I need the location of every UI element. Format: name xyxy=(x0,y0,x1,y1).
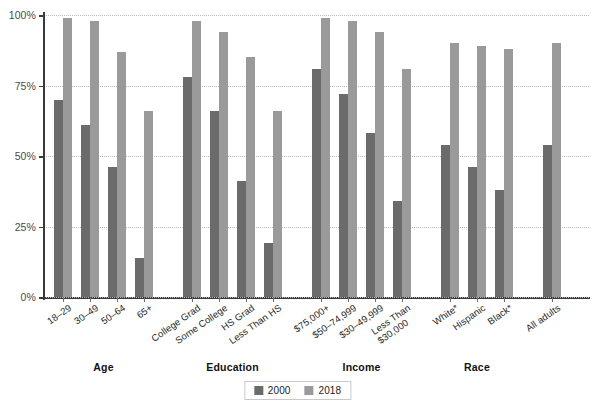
group-label-education: Education xyxy=(206,361,259,373)
bar-2000-$75,000+ xyxy=(312,69,321,297)
bar-2018-$75,000+ xyxy=(321,18,330,297)
bar-2018-50–64 xyxy=(117,52,126,297)
legend-label: 2000 xyxy=(268,385,291,396)
bar-2000-Some College xyxy=(210,111,219,297)
y-gridline xyxy=(44,15,589,16)
bar-2018-65+ xyxy=(144,111,153,297)
x-tick-mark xyxy=(117,297,118,302)
x-axis-tick-label: All adults xyxy=(524,302,563,334)
bar-2000-Hispanic xyxy=(468,167,477,297)
bar-2018-All adults xyxy=(552,43,561,297)
x-axis-tick-label: Black* xyxy=(485,302,514,327)
bar-2018-18–29 xyxy=(63,18,72,297)
bar-2000-30–49 xyxy=(81,125,90,297)
x-tick-mark xyxy=(477,297,478,302)
x-axis-tick-label: 50–64 xyxy=(99,302,127,326)
y-axis-tick-label: 50% xyxy=(15,150,36,162)
bar-2018-$50–74,999 xyxy=(348,21,357,297)
bar-2018-30–49 xyxy=(90,21,99,297)
bar-2018-College Grad xyxy=(192,21,201,297)
x-tick-mark xyxy=(552,297,553,302)
x-axis-tick-label: 18–29 xyxy=(45,302,73,326)
y-tick-mark xyxy=(39,227,45,229)
group-label-age: Age xyxy=(93,361,113,373)
group-label-income: Income xyxy=(343,361,381,373)
legend-swatch-icon xyxy=(305,386,314,395)
x-axis-tick-label: 65+ xyxy=(135,302,155,320)
bar-2000-$30–49,999 xyxy=(366,133,375,297)
chart-legend: 20002018 xyxy=(244,381,351,400)
bar-2018-HS Grad xyxy=(246,57,255,297)
bar-2000-50–64 xyxy=(108,167,117,297)
x-tick-mark xyxy=(144,297,145,302)
bar-2000-HS Grad xyxy=(237,181,246,297)
bar-2018-Black* xyxy=(504,49,513,297)
y-axis-tick-label: 100% xyxy=(9,9,36,21)
bar-2018-Some College xyxy=(219,32,228,297)
bar-2000-College Grad xyxy=(183,77,192,297)
y-tick-mark xyxy=(39,15,45,17)
y-gridline xyxy=(44,297,589,298)
bar-2018-Less Than $30,000 xyxy=(402,69,411,297)
x-tick-mark xyxy=(192,297,193,302)
y-tick-mark xyxy=(39,156,45,158)
y-tick-mark xyxy=(39,86,45,88)
legend-swatch-icon xyxy=(254,386,263,395)
y-axis-tick-label: 0% xyxy=(21,291,36,303)
bar-2018-Less Than HS xyxy=(273,111,282,297)
bar-2018-Hispanic xyxy=(477,46,486,297)
bar-2000-All adults xyxy=(543,145,552,297)
x-axis-tick-label: 30–49 xyxy=(72,302,100,326)
bar-2000-Black* xyxy=(495,190,504,297)
bar-2000-Less Than HS xyxy=(264,243,273,297)
bar-chart: 100%75%50%25%0% 18–2930–4950–6465+Colleg… xyxy=(0,0,595,407)
x-tick-mark xyxy=(63,297,64,302)
x-tick-mark xyxy=(402,297,403,302)
bar-2000-White* xyxy=(441,145,450,297)
bar-2000-18–29 xyxy=(54,100,63,297)
group-label-race: Race xyxy=(464,361,490,373)
legend-label: 2018 xyxy=(319,385,342,396)
x-tick-mark xyxy=(348,297,349,302)
y-axis-tick-label: 25% xyxy=(15,221,36,233)
bar-2018-White* xyxy=(450,43,459,297)
x-tick-mark xyxy=(321,297,322,302)
bar-2000-Less Than $30,000 xyxy=(393,201,402,297)
legend-item-2018[interactable]: 2018 xyxy=(305,385,342,396)
bar-2000-$50–74,999 xyxy=(339,94,348,297)
x-tick-mark xyxy=(246,297,247,302)
y-axis-tick-label: 75% xyxy=(15,80,36,92)
y-tick-mark xyxy=(39,297,45,299)
plot-area: 100%75%50%25%0% xyxy=(44,15,589,297)
x-tick-mark xyxy=(375,297,376,302)
x-tick-mark xyxy=(450,297,451,302)
legend-item-2000[interactable]: 2000 xyxy=(254,385,291,396)
x-tick-mark xyxy=(219,297,220,302)
x-tick-mark xyxy=(90,297,91,302)
x-tick-mark xyxy=(273,297,274,302)
bar-2018-$30–49,999 xyxy=(375,32,384,297)
bar-2000-65+ xyxy=(135,258,144,297)
x-tick-mark xyxy=(504,297,505,302)
